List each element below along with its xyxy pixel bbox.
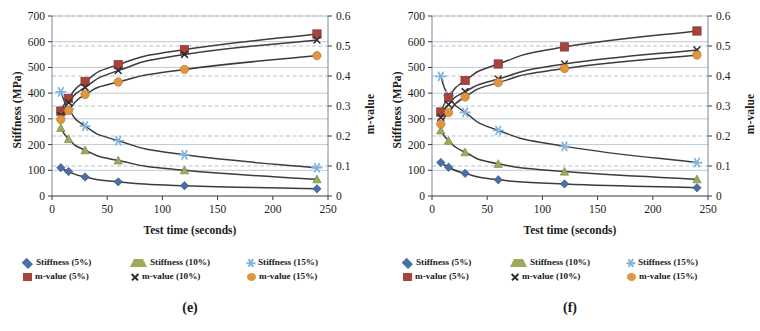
data-point-marker (57, 115, 65, 123)
x-axis-tick-label: 100 (154, 203, 172, 215)
data-point-marker (693, 184, 701, 192)
cross-marker-icon (130, 272, 139, 281)
y-axis-left-tick-label: 600 (28, 36, 46, 48)
y-axis-left-tick-label: 100 (408, 164, 426, 176)
y-axis-right-tick-label: 0.5 (716, 40, 731, 52)
x-axis-tick-label: 200 (644, 203, 662, 215)
y-axis-right-tick-label: 0 (336, 190, 342, 202)
legend-item: Stiffness (5%) (402, 258, 510, 267)
legend-item: Stiffness (10%) (510, 258, 626, 267)
data-point-marker (494, 176, 502, 184)
data-point-marker (114, 78, 122, 86)
y-axis-right-tick-label: 0.4 (716, 70, 731, 82)
data-point-marker (461, 93, 469, 101)
y-axis-left-tick-label: 300 (408, 113, 426, 125)
y-axis-right-tick-label: 0.5 (336, 40, 351, 52)
plot-area-e: 010020030040050060070000.10.20.30.40.50.… (0, 0, 380, 248)
x-axis-tick-label: 250 (699, 203, 717, 215)
y-axis-right-tick-label: 0 (716, 190, 722, 202)
data-point-marker (446, 102, 452, 108)
x-axis-tick-label: 150 (589, 203, 607, 215)
y-axis-left-tick-label: 400 (408, 87, 426, 99)
data-point-marker (560, 64, 568, 72)
legend-label: m-value (10%) (142, 272, 200, 281)
x-axis-tick-label: 100 (534, 203, 552, 215)
data-point-marker (444, 108, 452, 116)
legend-label: m-value (15%) (259, 272, 317, 281)
series-markers (57, 124, 322, 183)
chart-legend-f: Stiffness (5%)Stiffness (10%)Stiffness (… (402, 256, 746, 284)
y-axis-right-title-f: m-value (744, 74, 756, 154)
square-marker-icon (23, 273, 32, 281)
x-axis-tick-label: 250 (319, 203, 337, 215)
legend-item: m-value (10%) (130, 272, 246, 281)
diamond-marker-icon (402, 258, 413, 269)
circle-marker-icon (627, 273, 636, 281)
data-point-marker (493, 126, 503, 134)
y-axis-right-tick-label: 0.6 (336, 10, 351, 22)
y-axis-left-tick-label: 600 (408, 36, 426, 48)
square-marker-icon (403, 273, 412, 281)
legend-label: Stiffness (15%) (258, 258, 318, 267)
series-markers (56, 88, 322, 172)
chart-panel-f: 010020030040050060070000.10.20.30.40.50.… (380, 0, 760, 331)
chart-panel-e: 010020030040050060070000.10.20.30.40.50.… (0, 0, 380, 331)
data-series-group (436, 27, 702, 192)
chart-svg-e: 010020030040050060070000.10.20.30.40.50.… (0, 0, 380, 248)
data-point-marker (444, 93, 452, 101)
y-axis-right-tick-label: 0.3 (716, 100, 731, 112)
y-axis-right-tick-label: 0.6 (716, 10, 731, 22)
data-point-marker (313, 185, 321, 193)
data-point-marker (81, 90, 89, 98)
data-point-marker (436, 72, 446, 80)
data-point-marker (560, 142, 570, 150)
data-point-marker (461, 76, 469, 84)
y-axis-right-tick-label: 0.3 (336, 100, 351, 112)
y-axis-right-tick-label: 0.2 (336, 130, 351, 142)
legend-label: m-value (5%) (35, 272, 89, 281)
series-markers (437, 126, 702, 183)
legend-item: m-value (10%) (510, 272, 626, 281)
y-axis-left-tick-label: 200 (408, 139, 426, 151)
y-axis-right-tick-label: 0.1 (336, 160, 351, 172)
diamond-marker-icon (22, 258, 33, 269)
y-axis-left-tick-label: 100 (28, 164, 46, 176)
legend-label: Stiffness (15%) (638, 258, 698, 267)
x-axis-tick-label: 200 (264, 203, 282, 215)
legend-item: m-value (5%) (22, 272, 130, 281)
legend-item: m-value (15%) (246, 272, 366, 281)
figure-sheet: 010020030040050060070000.10.20.30.40.50.… (0, 0, 760, 331)
data-point-marker (494, 60, 502, 68)
y-axis-left-title-f: Stiffness (MPa) (391, 65, 403, 155)
panel-label-f: (f) (380, 300, 760, 316)
data-point-marker (57, 124, 65, 132)
legend-item: Stiffness (10%) (130, 258, 246, 267)
panel-label-e: (e) (0, 300, 380, 316)
data-point-marker (494, 78, 502, 86)
legend-item: Stiffness (5%) (22, 258, 130, 267)
y-axis-left-tick-label: 0 (419, 190, 425, 202)
legend-label: m-value (5%) (415, 272, 469, 281)
series-line (61, 56, 317, 120)
series-line (441, 50, 697, 118)
legend-item: m-value (15%) (626, 272, 746, 281)
cross-marker-icon (510, 272, 519, 281)
chart-legend-e: Stiffness (5%)Stiffness (10%)Stiffness (… (22, 256, 366, 284)
chart-svg-f: 010020030040050060070000.10.20.30.40.50.… (380, 0, 760, 248)
data-point-marker (693, 27, 701, 35)
triangle-marker-icon (130, 259, 147, 267)
series-line (441, 130, 697, 179)
triangle-marker-icon (510, 259, 527, 267)
data-point-marker (81, 146, 89, 154)
data-point-marker (692, 158, 702, 166)
data-series-group (56, 30, 322, 193)
y-axis-left-title-e: Stiffness (MPa) (11, 65, 23, 155)
data-point-marker (560, 43, 568, 51)
series-markers (437, 27, 702, 116)
legend-label: Stiffness (5%) (416, 258, 471, 267)
data-point-marker (81, 173, 89, 181)
y-axis-right-tick-label: 0.4 (336, 70, 351, 82)
y-axis-left-tick-label: 200 (28, 139, 46, 151)
y-axis-left-tick-label: 400 (28, 87, 46, 99)
x-axis-title-f: Test time (seconds) (380, 224, 760, 236)
